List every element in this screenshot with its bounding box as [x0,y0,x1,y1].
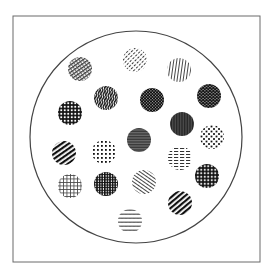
pattern-circle-open-grid-light [58,174,82,198]
pattern-circle-dot-grid [92,140,116,164]
pattern-circle-diag-light-nwse [132,170,156,194]
pattern-circle-diag-hatch-medium [68,57,92,81]
pattern-circle-diamond-lattice-dark [195,164,219,188]
pattern-circle-vertical-lines-light [167,58,191,82]
pattern-circle-brick-grid-dark [140,88,164,112]
pattern-circle-square-lattice-dark [58,101,82,125]
pattern-circle-zigzag-light [118,209,142,233]
pattern-circle-horizontal-fine-dark [127,128,151,152]
pattern-circle-checker-dots [200,125,224,149]
pattern-circle-horizontal-dashed [168,146,192,170]
pattern-circle-hex-lattice-dark [197,84,221,108]
pattern-circle-plaid-dark [94,172,118,196]
pattern-circle-diag-dashed-light [123,48,147,72]
pattern-circle-diag-thick-dark-2 [168,191,192,215]
pattern-circle-wavy-vertical-dark [94,86,118,110]
pattern-diagram [0,0,273,275]
pattern-circle-vertical-fine-dark [170,112,194,136]
pattern-circle-diag-thick-dark [52,141,76,165]
pattern-circles-group [52,48,224,233]
